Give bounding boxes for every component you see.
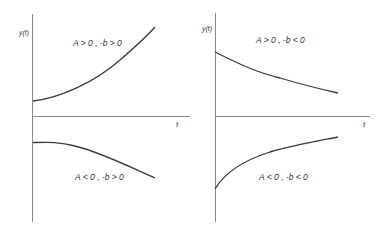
left-panel: y(t) t A > 0 , -b > 0 A < 0 , -b > 0 <box>18 14 190 222</box>
right-upper-curve-label: A > 0 , -b < 0 <box>255 35 305 45</box>
left-x-axis-label: t <box>176 120 179 129</box>
right-panel: y(t) t A > 0 , -b < 0 A < 0 , -b < 0 <box>201 13 370 222</box>
left-lower-curve-label: A < 0 , -b > 0 <box>74 172 124 182</box>
left-y-axis-label: y(t) <box>18 29 29 37</box>
right-y-axis-label: y(t) <box>201 25 212 33</box>
right-x-axis-label: t <box>363 120 366 129</box>
exponential-diagram: y(t) t A > 0 , -b > 0 A < 0 , -b > 0 y(t… <box>0 0 391 234</box>
left-upper-curve-label: A > 0 , -b > 0 <box>72 38 122 48</box>
right-upper-curve <box>215 52 338 93</box>
right-lower-curve-label: A < 0 , -b < 0 <box>258 172 308 182</box>
